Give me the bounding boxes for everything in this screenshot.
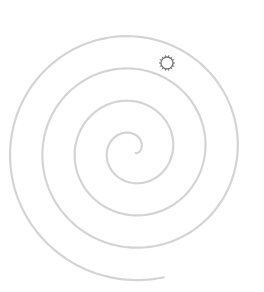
spiral-canvas bbox=[0, 0, 264, 292]
spiral-path bbox=[10, 36, 238, 280]
spiral-graphic bbox=[0, 0, 264, 292]
sun-disc bbox=[161, 57, 173, 69]
sun-icon[interactable] bbox=[159, 55, 175, 71]
